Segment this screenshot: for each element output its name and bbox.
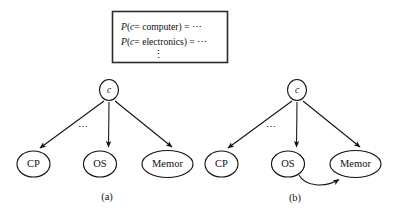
- edge-b-os-to-memor: [299, 175, 339, 185]
- figure-canvas: P(c= computer) = ⋯ P(c= electronics) = ⋯…: [0, 0, 400, 219]
- probability-line-0: P(c= computer) = ⋯: [120, 21, 202, 33]
- node-a-memor-label: Memor: [152, 158, 183, 169]
- probability-vertical-ellipsis: ⋮: [153, 48, 164, 60]
- edge-a-c-to-os: [109, 102, 110, 147]
- prob-tail-1: = ⋯: [187, 36, 207, 47]
- node-a-cp-label: CP: [27, 158, 40, 169]
- edge-b-c-to-memor: [303, 101, 360, 147]
- panel-b-branch-ellipsis: ⋯: [266, 121, 277, 132]
- panel-a: c ⋯ CP OS Memor (a): [17, 80, 193, 204]
- panel-b-caption: (b): [289, 192, 302, 204]
- edge-b-c-to-cp: [228, 101, 292, 148]
- panel-a-branch-ellipsis: ⋯: [78, 121, 89, 132]
- prob-tail-0: = ⋯: [182, 21, 202, 32]
- node-a-os-label: OS: [93, 158, 107, 169]
- node-b-os-label: OS: [281, 158, 295, 169]
- bayesian-network-figure: P(c= computer) = ⋯ P(c= electronics) = ⋯…: [0, 0, 400, 219]
- prob-eq-0: =: [134, 21, 142, 32]
- prob-eq-1: =: [134, 36, 142, 47]
- panel-b: c ⋯ CP OS Memor (b): [205, 80, 381, 205]
- panel-a-caption: (a): [101, 191, 113, 203]
- edge-a-c-to-memor: [115, 101, 172, 147]
- prob-value-1: electronics: [142, 36, 184, 47]
- node-b-memor-label: Memor: [340, 158, 371, 169]
- edge-b-c-to-os: [297, 102, 298, 147]
- probability-line-1: P(c= electronics) = ⋯: [120, 36, 207, 48]
- edge-a-c-to-cp: [40, 101, 104, 148]
- prob-value-0: computer: [142, 21, 179, 32]
- node-b-cp-label: CP: [215, 158, 228, 169]
